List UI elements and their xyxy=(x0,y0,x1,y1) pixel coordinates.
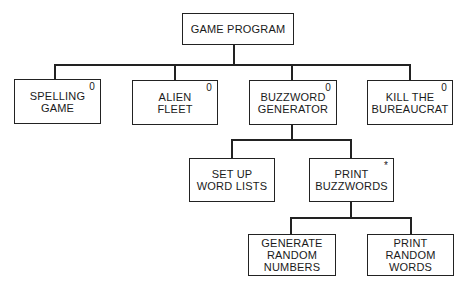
node-marker: 0 xyxy=(206,83,212,93)
node-label: ALIEN FLEET xyxy=(157,91,192,115)
node-label: GAME PROGRAM xyxy=(191,23,286,35)
connector-level2-bus xyxy=(231,139,352,141)
node-marker: 0 xyxy=(89,82,95,92)
connector-print-buzzwords-down xyxy=(350,201,352,218)
node-marker: 0 xyxy=(441,83,447,93)
connector-to-alien xyxy=(174,64,176,80)
node-label: KILL THE BUREAUCRAT xyxy=(372,91,449,115)
connector-buzzword-down xyxy=(291,125,293,140)
node-label: PRINT BUZZWORDS xyxy=(315,168,388,192)
connector-level1-bus xyxy=(54,64,411,66)
node-spelling-game: SPELLING GAME 0 xyxy=(14,79,101,124)
node-kill-the-bureaucrat: KILL THE BUREAUCRAT 0 xyxy=(367,80,453,125)
connector-to-print-random-words xyxy=(410,217,412,234)
node-marker: * xyxy=(384,161,388,171)
node-label: GENERATE RANDOM NUMBERS xyxy=(261,237,322,273)
connector-to-print-buzzwords xyxy=(350,139,352,158)
node-game-program: GAME PROGRAM xyxy=(182,13,294,45)
node-print-random-words: PRINT RANDOM WORDS xyxy=(367,234,454,276)
connector-to-generate xyxy=(290,217,292,234)
node-print-buzzwords: PRINT BUZZWORDS * xyxy=(309,158,394,202)
node-generate-random-numbers: GENERATE RANDOM NUMBERS xyxy=(248,234,336,276)
node-label: SPELLING GAME xyxy=(30,90,85,114)
node-buzzword-generator: BUZZWORD GENERATOR 0 xyxy=(249,80,337,125)
connector-to-setup xyxy=(231,139,233,158)
connector-to-buzzword xyxy=(291,64,293,80)
node-label: BUZZWORD GENERATOR xyxy=(258,91,328,115)
connector-to-spelling xyxy=(54,64,56,80)
node-alien-fleet: ALIEN FLEET 0 xyxy=(132,80,218,125)
connector-level3-bus xyxy=(290,217,412,219)
connector-root-down xyxy=(233,44,235,66)
node-marker: 0 xyxy=(325,83,331,93)
node-set-up-word-lists: SET UP WORD LISTS xyxy=(189,158,275,202)
connector-to-kill xyxy=(409,64,411,80)
node-label: PRINT RANDOM WORDS xyxy=(385,237,435,273)
node-label: SET UP WORD LISTS xyxy=(197,168,267,192)
